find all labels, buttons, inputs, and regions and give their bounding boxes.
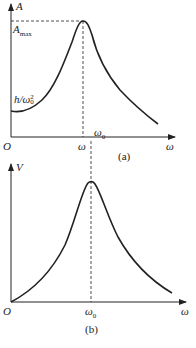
a-x-axis-label: ω xyxy=(166,141,174,152)
figure-a-axes xyxy=(11,4,175,137)
a-omega0-sub: 0 xyxy=(102,133,106,141)
velocity-curve xyxy=(11,182,172,302)
b-x-axis-label: ω xyxy=(181,306,189,317)
intercept-sub: 0 xyxy=(30,98,34,106)
resonance-diagram xyxy=(0,0,196,348)
b-omega0-sub: 0 xyxy=(93,312,97,320)
b-y-axis-label: V xyxy=(16,162,23,173)
figure-a-dashed-guides xyxy=(11,21,83,137)
a-omega0-main: ω xyxy=(94,126,102,138)
a-omega0-label: ω0 xyxy=(94,127,105,141)
figure-b-axes xyxy=(11,164,186,302)
amax-label: Amax xyxy=(13,24,32,38)
b-caption: (b) xyxy=(85,324,98,335)
intercept-label: h/ω20 xyxy=(14,94,34,106)
a-caption: (a) xyxy=(118,151,130,162)
amax-main: A xyxy=(13,23,20,35)
intercept-main: h/ω xyxy=(14,93,30,105)
b-omega0-label: ω0 xyxy=(85,306,96,320)
a-peak-omega-label: ω xyxy=(78,141,86,152)
a-y-axis-label: A xyxy=(16,1,23,12)
a-origin-label: O xyxy=(3,141,11,152)
b-origin-label: O xyxy=(3,306,11,317)
b-omega0-main: ω xyxy=(85,305,93,317)
amplitude-curve xyxy=(11,21,158,124)
amax-sub: max xyxy=(20,30,32,38)
